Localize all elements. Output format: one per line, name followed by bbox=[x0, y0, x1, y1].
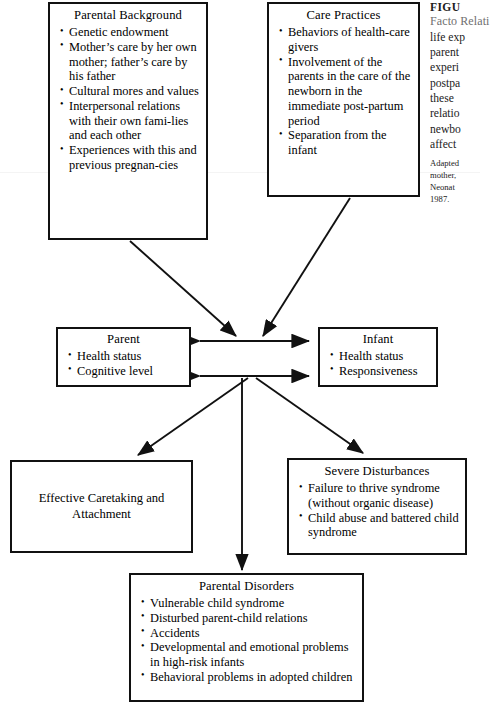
list-item: Health status bbox=[68, 349, 185, 364]
node-bullet-list: Failure to thrive syndrome (without orga… bbox=[289, 481, 465, 540]
arrow-center-to-effective-caretaking bbox=[138, 378, 248, 455]
node-care-practices: Care Practices Behaviors of health-care … bbox=[267, 2, 420, 197]
list-item: Vulnerable child syndrome bbox=[141, 596, 358, 611]
caption-title: Facto Relati bbox=[430, 14, 494, 29]
caption-body: life exp parent experi postpa these rela… bbox=[430, 30, 494, 152]
caption-source: Adapted mother, Neonat 1987. bbox=[430, 157, 494, 205]
node-bullet-list: Vulnerable child syndrome Disturbed pare… bbox=[131, 596, 362, 685]
list-item: Responsiveness bbox=[330, 364, 432, 379]
list-item: Disturbed parent-child relations bbox=[141, 611, 358, 626]
node-bullet-list: Health status Cognitive level bbox=[58, 349, 189, 379]
node-effective-caretaking: Effective Caretaking and Attachment bbox=[10, 460, 193, 553]
caption-figure-label: FIGU bbox=[430, 0, 494, 14]
node-parental-disorders: Parental Disorders Vulnerable child synd… bbox=[129, 573, 364, 702]
list-item: Health status bbox=[330, 349, 432, 364]
list-item: Genetic endowment bbox=[60, 25, 202, 40]
arrow-center-to-severe-disturbances bbox=[256, 378, 363, 453]
list-item: Cognitive level bbox=[68, 364, 185, 379]
list-item: Separation from the infant bbox=[279, 128, 414, 158]
list-item: Developmental and emotional problems in … bbox=[141, 640, 358, 670]
node-bullet-list: Health status Responsiveness bbox=[320, 349, 436, 379]
list-item: Accidents bbox=[141, 626, 358, 641]
node-title: Infant bbox=[320, 329, 436, 347]
list-item: Child abuse and battered child syndrome bbox=[299, 511, 461, 541]
node-bullet-list: Behaviors of health-care givers Involvem… bbox=[269, 25, 418, 158]
list-item: Involvement of the parents in the care o… bbox=[279, 55, 414, 129]
node-severe-disturbances: Severe Disturbances Failure to thrive sy… bbox=[287, 458, 467, 555]
node-title: Effective Caretaking and Attachment bbox=[12, 462, 191, 551]
list-item: Mother’s care by her own mother; father’… bbox=[60, 40, 202, 84]
node-title: Care Practices bbox=[269, 4, 418, 23]
list-item: Behavioral problems in adopted children bbox=[141, 670, 358, 685]
list-item: Failure to thrive syndrome (without orga… bbox=[299, 481, 461, 511]
list-item: Interpersonal relations with their own f… bbox=[60, 99, 202, 143]
node-title: Parental Background bbox=[50, 4, 206, 23]
list-item: Cultural mores and values bbox=[60, 84, 202, 99]
node-title: Parental Disorders bbox=[131, 575, 362, 594]
node-infant: Infant Health status Responsiveness bbox=[318, 327, 438, 387]
node-title: Parent bbox=[58, 329, 189, 347]
arrow-parental-background-to-center bbox=[130, 241, 236, 336]
node-parent: Parent Health status Cognitive level bbox=[56, 327, 191, 387]
figure-caption: FIGU Facto Relati life exp parent experi… bbox=[430, 0, 494, 205]
node-title: Severe Disturbances bbox=[289, 460, 465, 479]
list-item: Behaviors of health-care givers bbox=[279, 25, 414, 55]
arrow-care-practices-to-center bbox=[263, 198, 350, 336]
list-item: Experiences with this and previous pregn… bbox=[60, 143, 202, 173]
node-bullet-list: Genetic endowment Mother’s care by her o… bbox=[50, 25, 206, 173]
node-parental-background: Parental Background Genetic endowment Mo… bbox=[48, 2, 208, 240]
